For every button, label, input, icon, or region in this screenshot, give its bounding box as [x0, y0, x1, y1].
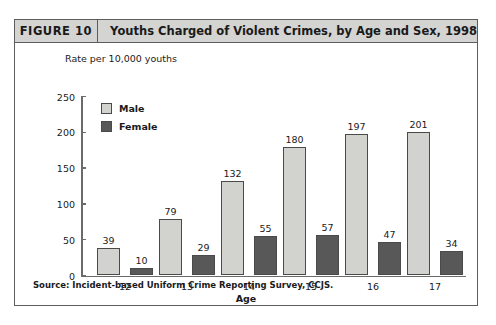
bar-value-label: 47: [375, 229, 405, 240]
bar-female-age-16: [378, 242, 401, 276]
bar-male-age-12: [97, 248, 120, 276]
bar-female-age-17: [440, 251, 463, 275]
figure-header: FIGURE 10 Youths Charged of Violent Crim…: [15, 20, 477, 43]
bar-female-age-12: [130, 268, 153, 275]
source-note: Source: Incident-based Uniform Crime Rep…: [33, 280, 333, 290]
bar-value-label: 132: [218, 168, 248, 179]
bar-value-label: 39: [94, 235, 124, 246]
bar-value-label: 57: [313, 222, 343, 233]
bar-value-label: 34: [437, 238, 467, 249]
bar-female-age-13: [192, 255, 215, 276]
bar-value-label: 197: [342, 121, 372, 132]
bar-female-age-14: [254, 236, 277, 275]
bar-male-age-16: [345, 134, 368, 275]
x-axis-tick-label-17: 17: [415, 281, 455, 292]
bar-male-age-14: [221, 181, 244, 276]
bar-value-label: 201: [404, 119, 434, 130]
figure-number-label: FIGURE 10: [15, 24, 97, 38]
bars-layer: 3910127929131325514180571519747162013417: [15, 43, 477, 305]
bar-value-label: 180: [280, 134, 310, 145]
x-axis-tick-label-16: 16: [353, 281, 393, 292]
x-axis-title: Age: [15, 293, 477, 304]
bar-male-age-15: [283, 147, 306, 276]
bar-value-label: 10: [127, 255, 157, 266]
figure-title: Youths Charged of Violent Crimes, by Age…: [98, 24, 477, 38]
bar-female-age-15: [316, 235, 339, 276]
bar-male-age-13: [159, 219, 182, 276]
chart-plot-area: Rate per 10,000 youths 050100150200250 M…: [15, 43, 477, 305]
figure-frame: FIGURE 10 Youths Charged of Violent Crim…: [14, 19, 478, 306]
bar-value-label: 79: [156, 206, 186, 217]
bar-male-age-17: [407, 132, 430, 276]
bar-value-label: 29: [189, 242, 219, 253]
bar-value-label: 55: [251, 223, 281, 234]
